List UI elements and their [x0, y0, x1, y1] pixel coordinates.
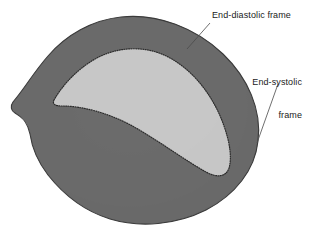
- label-end-systolic-frame: End-systolic frame: [252, 55, 302, 143]
- label-end-diastolic-frame: End-diastolic frame: [212, 10, 291, 21]
- label-end-systolic-line-2: frame: [252, 110, 302, 121]
- label-end-systolic-line-1: End-systolic: [252, 77, 302, 88]
- figure-container: End-diastolic frame End-systolic frame: [0, 0, 310, 237]
